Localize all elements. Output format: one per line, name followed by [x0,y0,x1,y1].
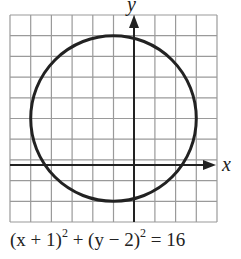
x-axis-label: x [221,153,231,175]
y-axis-arrow-icon [129,15,139,28]
grid-lines [10,15,217,222]
graph: x y [0,0,241,228]
exponent: 2 [62,226,68,240]
y-axis-label: y [125,0,136,16]
equation-part: (x + 1) [10,229,62,250]
equation-part: = 16 [146,229,185,250]
exponent: 2 [140,226,146,240]
x-axis-arrow-icon [203,160,216,170]
equation-part: + (y − 2) [68,229,140,250]
equation: (x + 1)2 + (y − 2)2 = 16 [10,228,185,251]
